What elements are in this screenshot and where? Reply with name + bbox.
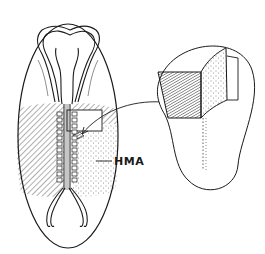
hma-label: HMA — [114, 155, 144, 168]
embryo-diagram — [0, 0, 265, 254]
neural-folds — [38, 26, 100, 104]
